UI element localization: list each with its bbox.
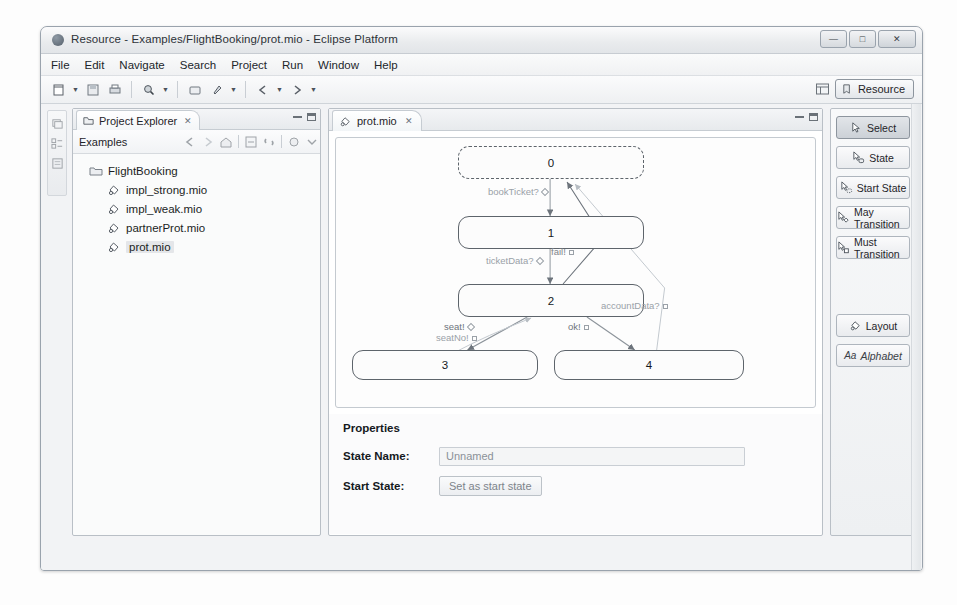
status-cell-1 — [65, 571, 365, 572]
transition-label-seatno[interactable]: seatNo! — [436, 332, 477, 343]
state-name-input[interactable]: Unnamed — [439, 447, 745, 466]
cursor-select-icon — [850, 121, 863, 134]
palette-state-button[interactable]: State — [836, 146, 910, 169]
tree-item-impl-strong[interactable]: impl_strong.mio — [89, 180, 320, 199]
mio-file-icon — [107, 240, 121, 254]
maximize-button[interactable]: □ — [849, 30, 876, 48]
state-name-row: State Name: Unnamed — [343, 443, 822, 469]
editor-minimize-icon[interactable] — [795, 116, 804, 118]
workbench-scrollbar[interactable] — [911, 104, 921, 570]
may-transition-marker-icon — [535, 257, 543, 265]
mio-file-icon — [107, 202, 121, 216]
mio-editor: prot.mio ✕ — [328, 108, 823, 536]
transition-label-fail[interactable]: fail! — [551, 246, 574, 257]
forward-icon[interactable] — [287, 80, 306, 99]
transition-label-seat[interactable]: seat! — [444, 321, 474, 332]
palette-may-transition-button[interactable]: May Transition — [836, 206, 910, 229]
menu-help[interactable]: Help — [374, 59, 398, 71]
view-chevron-icon[interactable] — [304, 134, 320, 150]
perspective-resource-button[interactable]: Resource — [835, 79, 914, 99]
tab-project-explorer[interactable]: Project Explorer ✕ — [76, 110, 200, 130]
search-icon[interactable] — [139, 80, 158, 99]
state-node-4[interactable]: 4 — [554, 350, 744, 380]
back-dropdown-icon[interactable]: ▼ — [275, 80, 284, 99]
link-editor-icon[interactable] — [261, 134, 277, 150]
new-wizard-icon[interactable] — [49, 80, 68, 99]
explorer-tab-close-icon[interactable]: ✕ — [184, 116, 192, 126]
run-icon[interactable] — [207, 80, 226, 99]
menu-project[interactable]: Project — [231, 59, 267, 71]
state-node-1[interactable]: 1 — [458, 216, 644, 249]
properties-section: Properties State Name: Unnamed Start Sta… — [329, 414, 822, 534]
toolbar-separator-2 — [177, 81, 178, 98]
palette-alphabet-button[interactable]: Aa Alphabet — [836, 344, 910, 367]
menu-file[interactable]: File — [51, 59, 70, 71]
tree-label: impl_strong.mio — [126, 184, 207, 196]
tree-item-partnerprot[interactable]: partnerProt.mio — [89, 218, 320, 237]
forward-dropdown-icon[interactable]: ▼ — [309, 80, 318, 99]
cursor-start-state-icon — [840, 181, 853, 194]
explorer-view-controls — [293, 113, 316, 121]
transition-label-text: accountData? — [601, 300, 660, 311]
palette-layout-button[interactable]: Layout — [836, 314, 910, 337]
open-type-icon[interactable] — [185, 80, 204, 99]
forward-icon[interactable] — [200, 134, 216, 150]
editor-tab-close-icon[interactable]: ✕ — [405, 116, 413, 126]
tree-item-flightbooking[interactable]: FlightBooking — [89, 161, 320, 180]
restore-view-icon[interactable] — [51, 117, 64, 130]
editor-tab-label: prot.mio — [357, 115, 397, 127]
eclipse-window: Resource - Examples/FlightBooking/prot.m… — [40, 26, 923, 571]
tree-item-impl-weak[interactable]: impl_weak.mio — [89, 199, 320, 218]
state-node-0[interactable]: 0 — [458, 146, 644, 179]
properties-view-icon[interactable] — [51, 157, 64, 170]
tree-item-prot[interactable]: prot.mio — [89, 237, 320, 256]
menu-edit[interactable]: Edit — [85, 59, 105, 71]
window-controls: — □ ✕ — [820, 30, 916, 48]
menu-navigate[interactable]: Navigate — [119, 59, 164, 71]
mio-file-icon — [107, 183, 121, 197]
search-dropdown-icon[interactable]: ▼ — [161, 80, 170, 99]
outline-view-icon[interactable] — [51, 137, 64, 150]
tab-prot-mio[interactable]: prot.mio ✕ — [332, 110, 422, 131]
must-transition-marker-icon — [584, 325, 589, 330]
transition-label-ok[interactable]: ok! — [568, 321, 589, 332]
transition-label-bookticket[interactable]: bookTicket? — [488, 186, 548, 197]
run-dropdown-icon[interactable]: ▼ — [229, 80, 238, 99]
resource-perspective-icon — [841, 83, 854, 96]
print-icon[interactable] — [105, 80, 124, 99]
open-perspective-icon[interactable] — [815, 82, 830, 96]
menu-search[interactable]: Search — [180, 59, 216, 71]
explorer-minimize-icon[interactable] — [293, 116, 302, 118]
minimize-button[interactable]: — — [820, 30, 847, 48]
new-wizard-dropdown-icon[interactable]: ▼ — [71, 80, 80, 99]
palette-select-button[interactable]: Select — [836, 116, 910, 139]
editor-maximize-icon[interactable] — [809, 113, 818, 121]
state-label: 3 — [442, 359, 448, 371]
menu-window[interactable]: Window — [318, 59, 359, 71]
transition-label-accountdata[interactable]: accountData? — [601, 300, 668, 311]
set-as-start-state-button[interactable]: Set as start state — [439, 476, 542, 496]
close-button[interactable]: ✕ — [878, 30, 916, 48]
menu-run[interactable]: Run — [282, 59, 303, 71]
properties-title: Properties — [343, 422, 822, 434]
back-icon[interactable] — [182, 134, 198, 150]
home-icon[interactable] — [218, 134, 234, 150]
must-transition-marker-icon — [663, 304, 668, 309]
cursor-must-transition-icon — [837, 241, 850, 254]
palette-must-transition-button[interactable]: Must Transition — [836, 236, 910, 259]
cursor-may-transition-icon — [837, 211, 850, 224]
palette-label: Start State — [857, 182, 907, 194]
back-icon[interactable] — [253, 80, 272, 99]
collapse-all-icon[interactable] — [243, 134, 259, 150]
palette-start-state-button[interactable]: Start State — [836, 176, 910, 199]
explorer-maximize-icon[interactable] — [307, 113, 316, 121]
mio-file-icon — [339, 115, 352, 128]
state-label: 4 — [646, 359, 652, 371]
transition-label-ticketdata[interactable]: ticketData? — [486, 255, 543, 266]
state-node-3[interactable]: 3 — [352, 350, 538, 380]
diagram-canvas[interactable]: 0 1 2 3 4 bookTicket? — [335, 137, 816, 408]
palette-label: State — [869, 152, 894, 164]
palette-label: Select — [867, 122, 896, 134]
save-icon[interactable] — [83, 80, 102, 99]
view-menu-icon[interactable] — [286, 134, 302, 150]
